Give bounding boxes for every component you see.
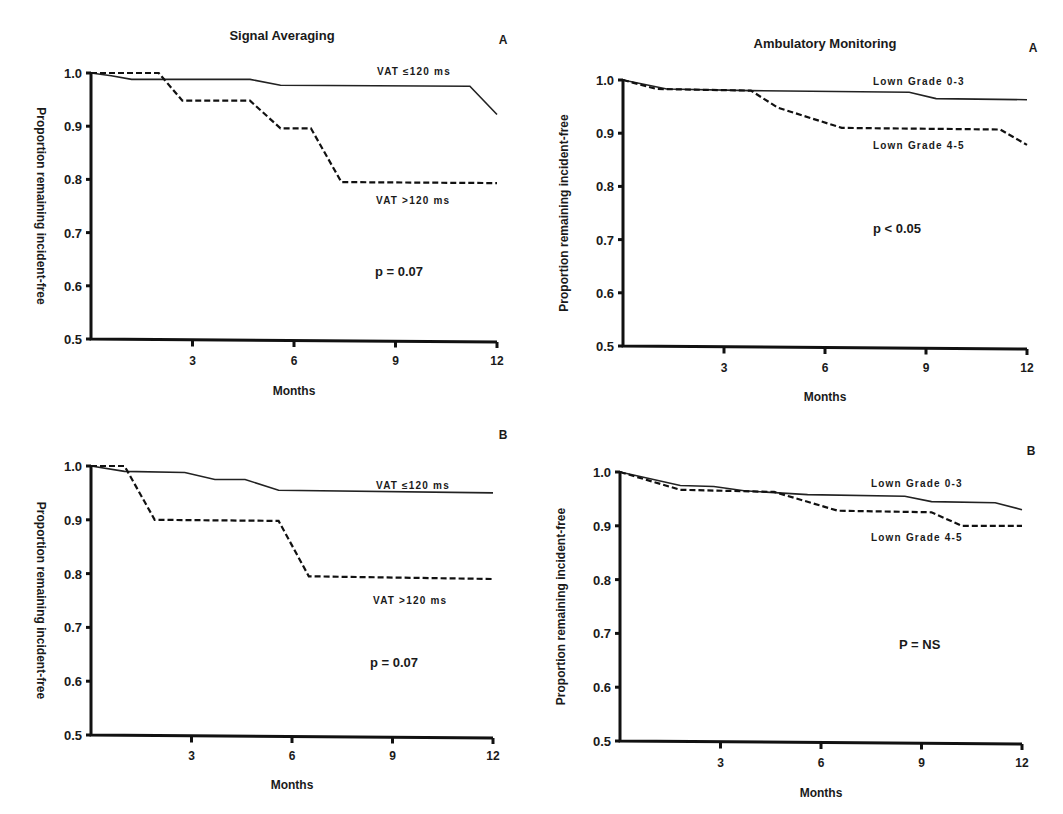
x-tick-label: 9 [923,361,930,375]
y-tick-label: 0.5 [593,734,611,749]
y-tick-label: 0.7 [64,226,82,241]
y-tick-label: 0.8 [596,179,614,194]
y-tick-label: 0.6 [64,279,82,294]
y-tick-label: 0.8 [64,567,82,582]
x-tick-label: 6 [818,756,825,770]
y-tick-label: 0.6 [596,286,614,301]
x-tick-label: 12 [1020,361,1034,375]
axes-lines [620,471,1022,744]
y-tick-label: 0.5 [596,339,614,354]
series-label: Lown Grade 4-5 [873,140,965,151]
y-tick-label: 0.6 [64,674,82,689]
x-tick-label: 9 [918,756,925,770]
y-tick-label: 0.9 [64,513,82,528]
y-axis-label: Proportion remaining incident-free [557,114,571,312]
panel-label: A [499,33,508,47]
p-value-annotation: p = 0.07 [370,655,418,670]
series-label: Lown Grade 0-3 [873,76,965,87]
p-value-annotation: p < 0.05 [873,221,921,236]
panel-label: B [1027,444,1036,458]
chart-ambulatory-monitoring-B: B1.00.90.80.70.60.536912MonthsProportion… [554,444,1036,800]
chart-title: Ambulatory Monitoring [754,36,897,51]
y-tick-label: 0.6 [593,680,611,695]
x-axis-label: Months [800,786,843,800]
y-tick-label: 0.7 [64,620,82,635]
series-line-dashed [91,73,497,183]
chart-title: Signal Averaging [229,28,334,43]
y-tick-label: 0.9 [596,126,614,141]
x-axis-label: Months [271,778,314,792]
chart-signal-averaging-A: Signal AveragingA1.00.90.80.70.60.536912… [34,28,508,398]
panel-label: B [499,428,508,442]
x-tick-label: 3 [721,361,728,375]
y-axis-label: Proportion remaining incident-free [554,508,568,706]
y-tick-label: 0.9 [593,519,611,534]
chart-signal-averaging-B: B1.00.90.80.70.60.536912MonthsProportion… [34,428,508,792]
series-label: Lown Grade 4-5 [871,532,963,543]
axes-lines [91,72,497,342]
x-tick-label: 9 [389,749,396,763]
x-tick-label: 12 [490,354,504,368]
x-tick-label: 12 [1015,756,1029,770]
series-line-solid [91,73,497,115]
chart-ambulatory-monitoring-A: Ambulatory MonitoringA1.00.90.80.70.60.5… [557,36,1038,404]
series-label: VAT >120 ms [373,595,447,606]
x-tick-label: 3 [188,749,195,763]
y-tick-label: 1.0 [593,465,611,480]
x-tick-label: 9 [392,354,399,368]
figure-canvas: Signal AveragingA1.00.90.80.70.60.536912… [0,0,1063,814]
x-tick-label: 6 [822,361,829,375]
y-tick-label: 0.7 [593,626,611,641]
y-tick-label: 0.8 [593,573,611,588]
x-axis-label: Months [804,390,847,404]
series-label: VAT ≤120 ms [376,480,450,491]
axes-lines [623,79,1027,349]
y-tick-label: 0.7 [596,233,614,248]
y-tick-label: 0.9 [64,119,82,134]
y-tick-label: 0.5 [64,332,82,347]
series-line-solid [623,80,1027,100]
figure: Signal AveragingA1.00.90.80.70.60.536912… [0,0,1063,814]
x-tick-label: 12 [486,749,500,763]
panel-label: A [1029,41,1038,55]
x-axis-label: Months [273,384,316,398]
y-tick-label: 0.5 [64,728,82,743]
y-tick-label: 0.8 [64,172,82,187]
x-tick-label: 3 [717,756,724,770]
series-label: VAT ≤120 ms [377,66,451,77]
x-tick-label: 3 [189,354,196,368]
y-axis-label: Proportion remaining incident-free [34,107,48,305]
p-value-annotation: p = 0.07 [375,264,423,279]
series-label: VAT >120 ms [376,195,450,206]
y-tick-label: 1.0 [64,66,82,81]
y-axis-label: Proportion remaining incident-free [34,502,48,700]
y-tick-label: 1.0 [64,459,82,474]
y-tick-label: 1.0 [596,73,614,88]
p-value-annotation: P = NS [899,637,941,652]
series-label: Lown Grade 0-3 [871,478,963,489]
x-tick-label: 6 [289,749,296,763]
x-tick-label: 6 [291,354,298,368]
